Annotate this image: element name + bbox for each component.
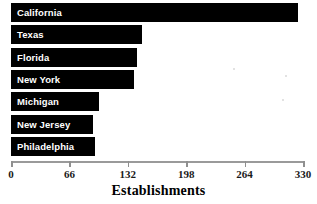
x-axis-tick-label: 0 [8, 168, 14, 180]
scan-speckle [282, 99, 284, 101]
x-axis-tick [245, 161, 247, 167]
x-axis-tick [11, 161, 13, 167]
x-axis-tick [128, 161, 130, 167]
x-axis-line [11, 161, 303, 163]
bar-row: Michigan [11, 92, 99, 111]
bar-label: California [17, 3, 62, 22]
x-axis-tick [303, 161, 305, 167]
bar-label: New Jersey [17, 115, 70, 134]
x-axis-tick-label: 132 [120, 168, 137, 180]
bar-row: California [11, 3, 298, 22]
scan-speckle [233, 68, 235, 70]
x-axis-title: Establishments [0, 183, 317, 199]
bar-label: New York [17, 70, 60, 89]
x-axis-tick [186, 161, 188, 167]
x-axis-tick-label: 198 [178, 168, 195, 180]
bar-label: Michigan [17, 92, 59, 111]
bar-row: Philadelphia [11, 137, 95, 156]
x-axis-tick [69, 161, 71, 167]
bar-label: Philadelphia [17, 137, 74, 156]
plot-area: CaliforniaTexasFloridaNew YorkMichiganNe… [0, 0, 317, 160]
x-axis-tick-label: 264 [236, 168, 253, 180]
x-axis-tick-label: 66 [64, 168, 75, 180]
x-axis-tick-label: 330 [295, 168, 312, 180]
bar-row: New York [11, 70, 134, 89]
bar-label: Texas [17, 25, 44, 44]
bar-chart: CaliforniaTexasFloridaNew YorkMichiganNe… [0, 0, 317, 204]
bar-row: New Jersey [11, 115, 93, 134]
bar-label: Florida [17, 48, 49, 67]
scan-speckle [285, 75, 287, 77]
bar-row: Texas [11, 25, 142, 44]
bar-row: Florida [11, 48, 137, 67]
